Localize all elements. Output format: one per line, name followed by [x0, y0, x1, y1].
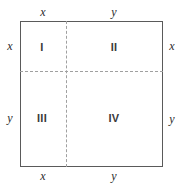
vertical-dashed-divider — [66, 21, 67, 167]
quadrant-label-i: I — [40, 41, 43, 53]
left-lower-dimension-label: y — [7, 111, 12, 126]
left-upper-dimension-label: x — [7, 39, 12, 54]
bottom-right-dimension-label: y — [111, 169, 116, 184]
top-left-dimension-label: x — [40, 5, 45, 20]
quadrant-label-iv: IV — [109, 112, 120, 124]
right-upper-dimension-label: x — [169, 39, 174, 54]
quadrant-label-iii: III — [37, 112, 47, 124]
bottom-left-dimension-label: x — [40, 169, 45, 184]
quadrant-label-ii: II — [111, 41, 118, 53]
top-right-dimension-label: y — [111, 5, 116, 20]
horizontal-dashed-divider — [20, 71, 163, 72]
right-lower-dimension-label: y — [169, 112, 174, 127]
geometry-figure: I II III IV x y x y x y x y — [0, 0, 181, 185]
